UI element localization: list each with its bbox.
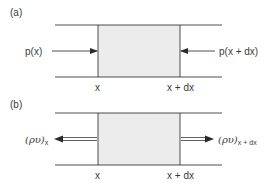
mass-flux-arrow-right-icon — [181, 136, 214, 143]
x-dx-label-b: x + dx — [167, 170, 194, 181]
right-flux-label: (ρυ)x + dx — [218, 134, 257, 146]
control-volume-a — [98, 25, 180, 77]
panel-a: (a) p(x) p(x + dx) x x + dx — [10, 7, 258, 93]
panel-b: (b) (ρυ)x (ρυ)x + dx x x + dx — [10, 99, 257, 181]
control-volume-b — [98, 113, 180, 165]
x-label-b: x — [95, 170, 100, 181]
right-pressure-label: p(x + dx) — [219, 46, 258, 57]
left-flux-label: (ρυ)x — [25, 134, 49, 146]
mass-flux-arrow-left-icon — [54, 136, 97, 143]
panel-b-label: (b) — [10, 99, 22, 110]
control-volume-diagram: (a) p(x) p(x + dx) x x + dx (b) — [0, 0, 271, 186]
x-dx-label-a: x + dx — [167, 82, 194, 93]
panel-a-label: (a) — [10, 7, 22, 18]
x-label-a: x — [95, 82, 100, 93]
left-pressure-label: p(x) — [25, 46, 42, 57]
